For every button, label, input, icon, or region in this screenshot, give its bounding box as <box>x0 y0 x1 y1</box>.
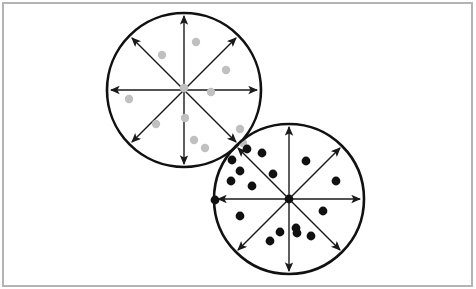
black-data-point-3 <box>236 167 245 176</box>
black-data-point-4 <box>269 170 278 179</box>
black-data-point-12 <box>276 228 285 237</box>
black-data-point-13 <box>293 229 302 238</box>
figure-container <box>0 0 476 289</box>
gray-data-point-6 <box>181 114 189 122</box>
gray-data-point-1 <box>158 51 166 59</box>
black-data-point-15 <box>266 237 275 246</box>
figure-svg <box>0 0 476 289</box>
black-data-point-17 <box>285 195 294 204</box>
gray-data-point-4 <box>207 88 215 96</box>
black-data-point-8 <box>332 177 341 186</box>
black-data-point-7 <box>302 157 311 166</box>
black-data-point-9 <box>236 212 245 221</box>
black-data-point-14 <box>307 232 316 241</box>
black-data-point-16 <box>211 196 220 205</box>
gray-data-point-8 <box>190 136 198 144</box>
gray-data-point-9 <box>201 144 209 152</box>
gray-data-point-10 <box>180 84 188 92</box>
gray-data-point-7 <box>236 125 244 133</box>
black-data-point-0 <box>243 145 252 154</box>
black-data-point-5 <box>227 177 236 186</box>
gray-data-point-2 <box>222 66 230 74</box>
black-data-point-10 <box>319 207 328 216</box>
black-data-point-1 <box>258 149 267 158</box>
gray-data-point-0 <box>192 38 200 46</box>
black-data-point-6 <box>248 182 257 191</box>
black-data-point-2 <box>228 156 237 165</box>
gray-data-point-3 <box>125 95 133 103</box>
gray-data-point-5 <box>152 120 160 128</box>
